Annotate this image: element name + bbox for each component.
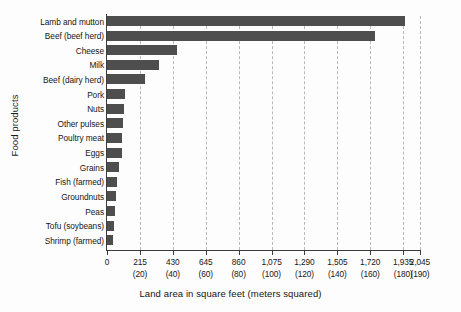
x-axis-title: Land area in square feet (meters squared… — [0, 288, 461, 299]
x-tick-sublabel: (140) — [328, 269, 347, 279]
category-label-group: Lamb and muttonBeef (beef herd)CheeseMil… — [22, 16, 104, 250]
bar — [107, 162, 119, 172]
gridline — [370, 16, 371, 250]
category-label: Groundnuts — [22, 192, 104, 202]
x-tick — [337, 251, 338, 255]
category-label: Fish (farmed) — [22, 177, 104, 187]
x-tick — [272, 251, 273, 255]
x-tick — [206, 251, 207, 255]
x-tick — [420, 251, 421, 255]
gridline — [206, 16, 207, 250]
x-tick — [239, 251, 240, 255]
gridline — [304, 16, 305, 250]
x-axis-line — [107, 250, 421, 251]
x-tick-label: 645 — [199, 257, 213, 267]
bar — [107, 148, 122, 158]
bar — [107, 16, 405, 26]
x-tick — [370, 251, 371, 255]
x-tick-sublabel: (60) — [199, 269, 213, 279]
bar — [107, 235, 113, 245]
gridline — [239, 16, 240, 250]
x-tick — [304, 251, 305, 255]
gridline — [272, 16, 273, 250]
x-tick-label: 430 — [166, 257, 180, 267]
category-label: Milk — [22, 60, 104, 70]
bar — [107, 74, 145, 84]
plot-area — [107, 16, 420, 250]
x-tick-label: 1,290 — [294, 257, 314, 267]
chart-page: Food products Lamb and muttonBeef (beef … — [0, 0, 461, 312]
category-label: Eggs — [22, 148, 104, 158]
category-label: Nuts — [22, 104, 104, 114]
category-label: Beef (dairy herd) — [22, 75, 104, 85]
gridline — [420, 16, 421, 250]
bar — [107, 31, 375, 41]
bar — [107, 191, 116, 201]
x-tick-label: 1,505 — [327, 257, 347, 267]
x-tick — [173, 251, 174, 255]
x-tick — [107, 251, 108, 255]
x-tick-sublabel: (100) — [262, 269, 281, 279]
x-tick-sublabel: (120) — [295, 269, 314, 279]
category-label: Cheese — [22, 46, 104, 56]
bar — [107, 206, 115, 216]
x-tick-sublabel: (20) — [133, 269, 147, 279]
x-tick-label: 215 — [133, 257, 147, 267]
x-tick-sublabel: (80) — [231, 269, 245, 279]
x-tick-label: 860 — [232, 257, 246, 267]
y-axis-line — [106, 14, 107, 251]
bar — [107, 104, 124, 114]
category-label: Tofu (soybeans) — [22, 221, 104, 231]
category-label: Lamb and mutton — [22, 17, 104, 27]
x-tick-label: 1,075 — [261, 257, 281, 267]
y-axis-title-text: Food products — [9, 94, 20, 156]
gridline — [337, 16, 338, 250]
bar — [107, 177, 117, 187]
x-tick — [403, 251, 404, 255]
x-tick-sublabel: (40) — [166, 269, 180, 279]
bar — [107, 45, 177, 55]
category-label: Poultry meat — [22, 133, 104, 143]
x-tick-sublabel: (160) — [361, 269, 380, 279]
x-tick — [140, 251, 141, 255]
x-tick-sublabel: (190) — [411, 269, 430, 279]
gridline — [403, 16, 404, 250]
bar — [107, 60, 159, 70]
category-label: Other pulses — [22, 119, 104, 129]
category-label: Pork — [22, 90, 104, 100]
y-axis-title: Food products — [4, 0, 24, 250]
bar — [107, 118, 123, 128]
category-label: Shrimp (farmed) — [22, 236, 104, 246]
bar — [107, 89, 125, 99]
x-tick-label: 0 — [105, 257, 110, 267]
bar — [107, 221, 114, 231]
x-tick-label: 2,045 — [410, 257, 430, 267]
x-tick-label: 1,720 — [360, 257, 380, 267]
category-label: Beef (beef herd) — [22, 31, 104, 41]
category-label: Grains — [22, 163, 104, 173]
category-label: Peas — [22, 207, 104, 217]
bar — [107, 133, 122, 143]
